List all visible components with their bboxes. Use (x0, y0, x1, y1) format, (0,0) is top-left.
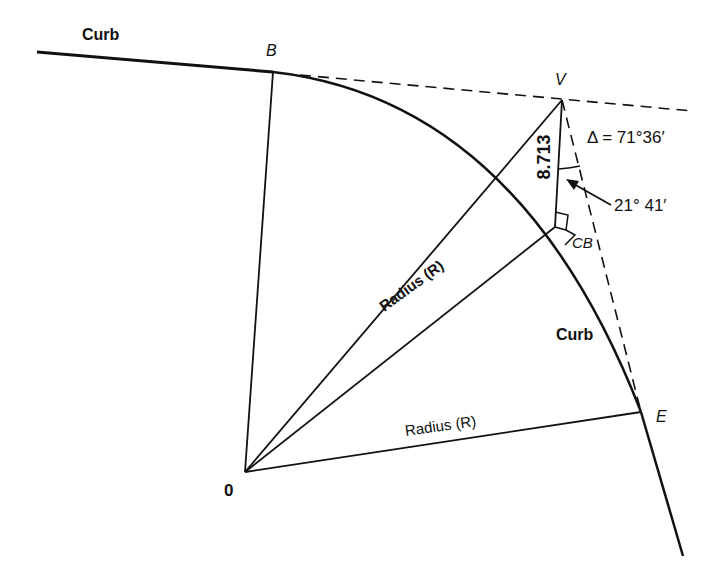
delta-angle-label: Δ = 71°36′ (587, 129, 665, 146)
curb-geometry-diagram (0, 0, 712, 573)
radius-line-ob (245, 72, 273, 472)
point-o-label: 0 (224, 482, 233, 499)
point-cb-label: CB (572, 235, 593, 250)
curb-label-right: Curb (556, 327, 593, 343)
right-angle-marker (555, 212, 568, 230)
angle-arrow-head (566, 179, 579, 190)
half-angle-label: 21° 41′ (614, 197, 667, 214)
point-v-label: V (555, 72, 566, 88)
distance-label: 8.713 (535, 134, 553, 179)
point-e-label: E (656, 409, 667, 425)
angle-arrow-line (572, 183, 611, 205)
curb-line-bottom (641, 412, 683, 556)
line-v-cb (555, 100, 562, 227)
point-b-label: B (266, 43, 277, 59)
curb-line-top (37, 52, 273, 72)
angle-arc (559, 166, 580, 169)
curb-label-top: Curb (82, 27, 119, 43)
tangent-line-top (300, 75, 692, 111)
radius-line-ocb (245, 227, 555, 472)
